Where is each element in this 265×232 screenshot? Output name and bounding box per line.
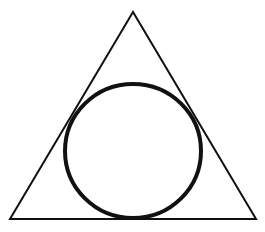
background: [0, 0, 265, 232]
diagram-canvas: [0, 0, 265, 232]
